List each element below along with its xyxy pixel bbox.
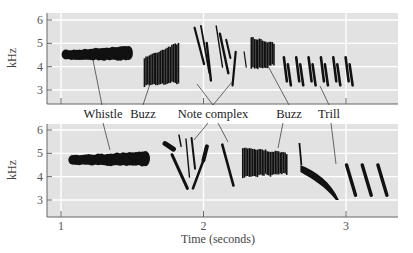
y-tick-label: 4 <box>37 60 43 74</box>
annotation-label: Note complex <box>178 107 249 121</box>
annotation-label: Buzz <box>276 107 302 121</box>
annotation-label: Buzz <box>130 107 156 121</box>
buzz-segment <box>251 37 275 69</box>
y-tick-label: 6 <box>37 13 43 27</box>
y-axis-label: kHz <box>5 160 19 180</box>
y-tick-label: 6 <box>37 123 43 137</box>
spectrogram-figure: 3456 kHz 3456 kHz 123 Time (seconds) Whi… <box>0 0 413 253</box>
y-tick-label: 4 <box>37 170 43 184</box>
y-tick-label: 5 <box>37 36 43 50</box>
x-tick-label: 2 <box>201 219 207 233</box>
bottom-spectrogram-panel: 3456 kHz <box>5 123 398 217</box>
x-axis-label: Time (seconds) <box>181 232 255 246</box>
y-tick-label: 3 <box>37 83 43 97</box>
annotation-label: Whistle <box>84 107 123 121</box>
x-tick-label: 1 <box>58 219 64 233</box>
y-tick-label: 3 <box>37 193 43 207</box>
y-tick-label: 5 <box>37 146 43 160</box>
x-tick-label: 3 <box>343 219 349 233</box>
x-tick-labels: 123 <box>58 219 349 233</box>
annotation-label: Trill <box>318 107 340 121</box>
y-axis-label: kHz <box>5 48 19 68</box>
